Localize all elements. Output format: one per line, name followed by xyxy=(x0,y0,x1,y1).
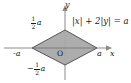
fraction-denominator: 2 xyxy=(31,24,37,31)
figure-canvas xyxy=(0,0,131,83)
x-positive-intercept-label: a xyxy=(97,50,102,58)
y-negative-intercept-label: − 1 2 a xyxy=(27,62,45,76)
y-negative-intercept-sign: − xyxy=(27,65,34,73)
fraction-denominator: 2 xyxy=(34,70,40,77)
math-figure-rhombus: y x O -a a |x| + 2|y| = a 1 2 a − 1 2 a xyxy=(0,0,131,83)
y-negative-intercept-variable: a xyxy=(41,65,46,73)
y-positive-intercept-label: 1 2 a xyxy=(30,16,42,30)
fraction-one-half-positive: 1 2 xyxy=(31,16,37,30)
fraction-one-half-negative: 1 2 xyxy=(34,62,40,76)
x-negative-intercept-label: -a xyxy=(13,50,20,58)
y-positive-intercept-variable: a xyxy=(37,19,42,27)
origin-label: O xyxy=(57,50,63,58)
x-axis-label: x xyxy=(110,50,115,58)
y-axis-label: y xyxy=(65,1,70,9)
rhombus-region xyxy=(32,30,97,65)
equation-label: |x| + 2|y| = a xyxy=(72,17,129,26)
